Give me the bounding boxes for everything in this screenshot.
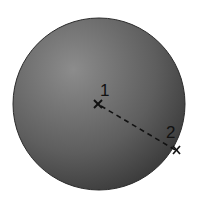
point-1-label: 1 — [100, 81, 109, 100]
point-2-label: 2 — [166, 123, 175, 142]
sphere-diagram: 1 2 — [0, 0, 199, 205]
